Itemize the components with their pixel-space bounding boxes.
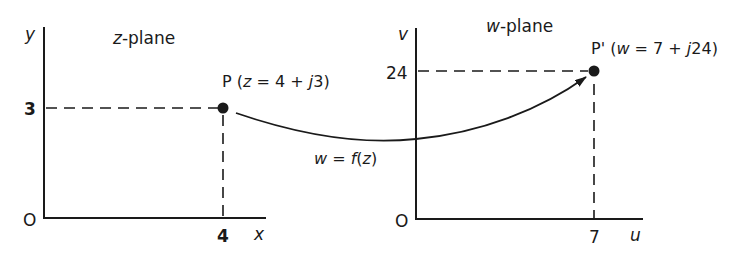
w-plane-u-tick-7: 7 [589,227,600,247]
point-p-prime-marker [589,66,600,77]
point-p-label: P (z = 4 + j3) [222,72,330,91]
point-p-marker [218,103,229,114]
w-plane-title: w-plane [486,16,553,36]
w-plane: v w-plane 24 O 7 u P' (w = 7 + j24) [386,16,718,247]
z-plane-y-axis-label: y [24,24,36,44]
z-plane-origin-label: O [23,210,36,230]
w-plane-u-axis-label: u [630,225,641,245]
point-p-prime-label: P' (w = 7 + j24) [591,39,718,58]
z-plane-x-axis-label: x [253,224,265,244]
w-plane-origin-label: O [395,211,408,231]
mapping-function-label: w = f(z) [314,149,377,168]
z-plane-x-tick-4: 4 [217,226,229,246]
z-plane: y z-plane 3 O 4 x P (z = 4 + j3) [23,24,330,246]
w-plane-v-axis-label: v [398,24,409,44]
z-plane-y-tick-3: 3 [24,99,36,119]
z-plane-title: z-plane [112,28,175,48]
complex-mapping-diagram: y z-plane 3 O 4 x P (z = 4 + j3) w = f(z… [0,0,732,255]
w-plane-v-tick-24: 24 [386,63,408,83]
